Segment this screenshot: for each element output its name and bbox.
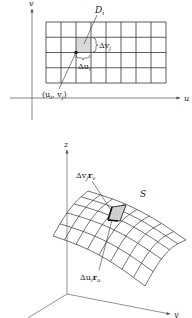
- y-axis: [67, 294, 170, 314]
- point-label: (ui, vj): [42, 90, 67, 101]
- v-axis-label: v: [29, 0, 34, 8]
- delta-u-label: Δui: [78, 62, 91, 72]
- u-axis-label: u: [184, 94, 189, 103]
- Dij-label: Di: [94, 5, 104, 16]
- rv-leader: [92, 181, 111, 210]
- surface-area-diagram: u v Di (ui, vj) Δvj Δui z: [0, 0, 192, 318]
- y-axis-label: y: [173, 310, 179, 318]
- surface-mesh: [53, 191, 186, 286]
- delta-v-label: Δvj: [99, 41, 111, 52]
- delta-v-brace: [93, 38, 98, 52]
- mesh-line: [60, 224, 153, 272]
- uv-plane-figure: u v Di (ui, vj) Δvj Δui: [10, 0, 189, 120]
- xyz-surface-figure: z y S Δvjrv Δuiru: [28, 140, 186, 318]
- delta-u-brace: [76, 55, 90, 60]
- patch-edge-ru: [108, 220, 118, 221]
- ru-leader: [99, 220, 112, 270]
- uv-grid: [46, 22, 166, 83]
- rv-label: Δvjrv: [76, 170, 96, 182]
- mesh-line: [81, 197, 178, 244]
- point-leader: [59, 53, 76, 90]
- x-axis: [28, 294, 67, 318]
- z-axis-label: z: [63, 140, 69, 149]
- surface-label: S: [140, 189, 146, 199]
- ru-label: Δuiru: [80, 272, 101, 283]
- shaded-rectangle-Dij: [76, 37, 91, 52]
